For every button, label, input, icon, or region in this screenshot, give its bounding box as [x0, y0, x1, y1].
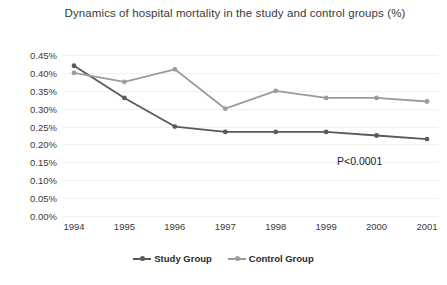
y-axis-tick-label: 0.40% [30, 67, 57, 78]
x-axis-tick-label: 2001 [416, 221, 437, 232]
data-point-marker [273, 88, 278, 93]
data-point-marker [425, 137, 430, 142]
data-point-marker [324, 130, 329, 135]
data-point-marker [72, 63, 77, 68]
x-axis-tick-label: 1995 [114, 221, 135, 232]
legend-item[interactable]: Study Group [133, 253, 212, 264]
data-point-marker [223, 106, 228, 111]
y-axis-tick-label: 0.00% [30, 211, 57, 222]
y-axis-tick-label: 0.30% [30, 103, 57, 114]
gridline [63, 216, 438, 217]
data-point-marker [223, 130, 228, 135]
data-point-marker [324, 96, 329, 101]
x-axis-tick-label: 1998 [265, 221, 286, 232]
y-axis-tick-label: 0.45% [30, 50, 57, 61]
y-axis-labels: 0.45%0.40%0.35%0.30%0.25%0.20%0.15%0.10%… [0, 55, 57, 216]
y-axis-tick-label: 0.05% [30, 193, 57, 204]
data-point-marker [425, 99, 430, 104]
y-axis-tick-label: 0.35% [30, 85, 57, 96]
y-axis-tick-label: 0.15% [30, 157, 57, 168]
x-axis-tick-label: 1994 [63, 221, 84, 232]
legend-item[interactable]: Control Group [228, 253, 314, 264]
data-point-marker [273, 130, 278, 135]
data-point-marker [374, 133, 379, 138]
x-axis-tick-label: 1996 [164, 221, 185, 232]
x-axis-tick-label: 1999 [316, 221, 337, 232]
data-point-marker [122, 96, 127, 101]
plot-area [63, 55, 438, 216]
chart-legend: Study GroupControl Group [0, 253, 447, 264]
series-line [74, 69, 427, 108]
y-axis-tick-label: 0.10% [30, 175, 57, 186]
series-lines [63, 55, 438, 216]
legend-label: Study Group [154, 253, 212, 264]
pvalue-annotation: P<0.0001 [337, 155, 382, 167]
data-point-marker [374, 96, 379, 101]
y-axis-tick-label: 0.20% [30, 139, 57, 150]
legend-label: Control Group [249, 253, 314, 264]
series-line [74, 66, 427, 139]
chart-container: Dynamics of hospital mortality in the st… [0, 0, 447, 285]
chart-title: Dynamics of hospital mortality in the st… [55, 6, 415, 21]
data-point-marker [172, 67, 177, 72]
data-point-marker [122, 79, 127, 84]
x-axis-tick-label: 2000 [366, 221, 387, 232]
x-axis-tick-label: 1997 [215, 221, 236, 232]
y-axis-tick-label: 0.25% [30, 121, 57, 132]
legend-marker-icon [133, 254, 151, 263]
data-point-marker [72, 70, 77, 75]
x-axis-labels: 19941995199619971998199920002001 [63, 221, 438, 237]
data-point-marker [172, 124, 177, 129]
legend-marker-icon [228, 254, 246, 263]
